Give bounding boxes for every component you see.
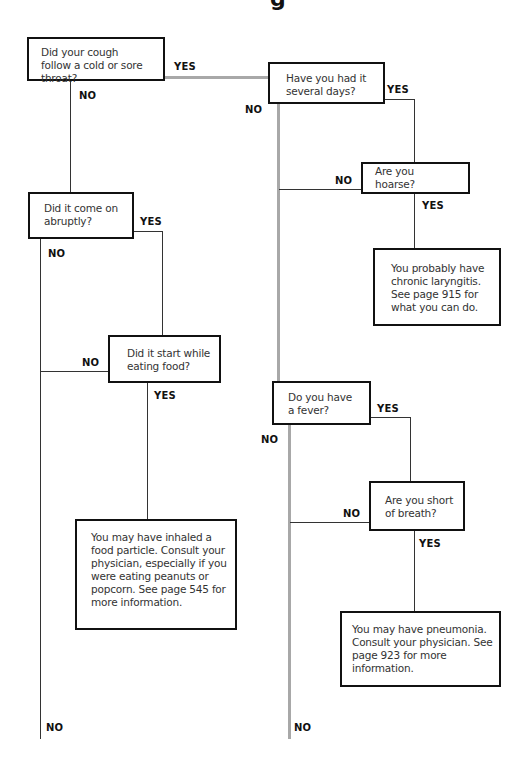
label-fever-no: NO (261, 434, 278, 445)
connector-days-yes-v (414, 99, 415, 162)
connector-days-yes-h (385, 99, 415, 100)
connector-breath-yes (414, 531, 415, 611)
label-eating-yes: YES (154, 390, 176, 401)
connector-days-no (277, 104, 280, 382)
result-food-particle: You may have inhaled a food particle. Co… (75, 519, 237, 630)
result-chronic-laryngitis: You probably have chronic laryngitis. Se… (373, 248, 501, 326)
label-breath-no: NO (343, 508, 360, 519)
connector-hoarse-no (279, 189, 361, 190)
connector-eating-yes (147, 383, 148, 519)
title-fragment: g (270, 0, 286, 11)
connector-cold-yes (165, 76, 269, 79)
question-hoarse: Are you hoarse? (361, 162, 470, 194)
label-cold-no: NO (79, 90, 96, 101)
label-cold-yes: YES (174, 61, 196, 72)
question-short-of-breath: Are you short of breath? (369, 481, 465, 531)
connector-breath-no (290, 522, 369, 523)
label-eating-no: NO (82, 357, 99, 368)
label-abrupt-no: NO (48, 248, 65, 259)
question-eating-food: Did it start while eating food? (108, 335, 221, 383)
connector-hoarse-yes (414, 194, 415, 248)
connector-abrupt-yes-v (162, 231, 163, 335)
label-hoarse-no: NO (335, 175, 352, 186)
connector-cold-no (70, 81, 71, 192)
question-abrupt: Did it come on abruptly? (28, 192, 134, 239)
connector-abrupt-yes-h (134, 231, 163, 232)
question-cold-sore-throat: Did your cough follow a cold or sore thr… (27, 37, 165, 81)
connector-fever-no (288, 425, 291, 739)
label-breath-yes: YES (419, 538, 441, 549)
label-days-yes: YES (387, 84, 409, 95)
question-several-days: Have you had it several days? (268, 62, 385, 104)
connector-fever-yes-v (410, 417, 411, 481)
label-bottom-left-no: NO (46, 722, 63, 733)
label-abrupt-yes: YES (140, 216, 162, 227)
connector-fever-yes-h (371, 417, 411, 418)
connector-eating-no (40, 371, 108, 372)
label-hoarse-yes: YES (422, 200, 444, 211)
label-bottom-right-no: NO (294, 722, 311, 733)
connector-abrupt-no (40, 239, 41, 739)
label-fever-yes: YES (377, 403, 399, 414)
result-pneumonia: You may have pneumonia. Consult your phy… (340, 611, 501, 687)
question-fever: Do you have a fever? (272, 381, 371, 425)
label-days-no: NO (245, 104, 262, 115)
